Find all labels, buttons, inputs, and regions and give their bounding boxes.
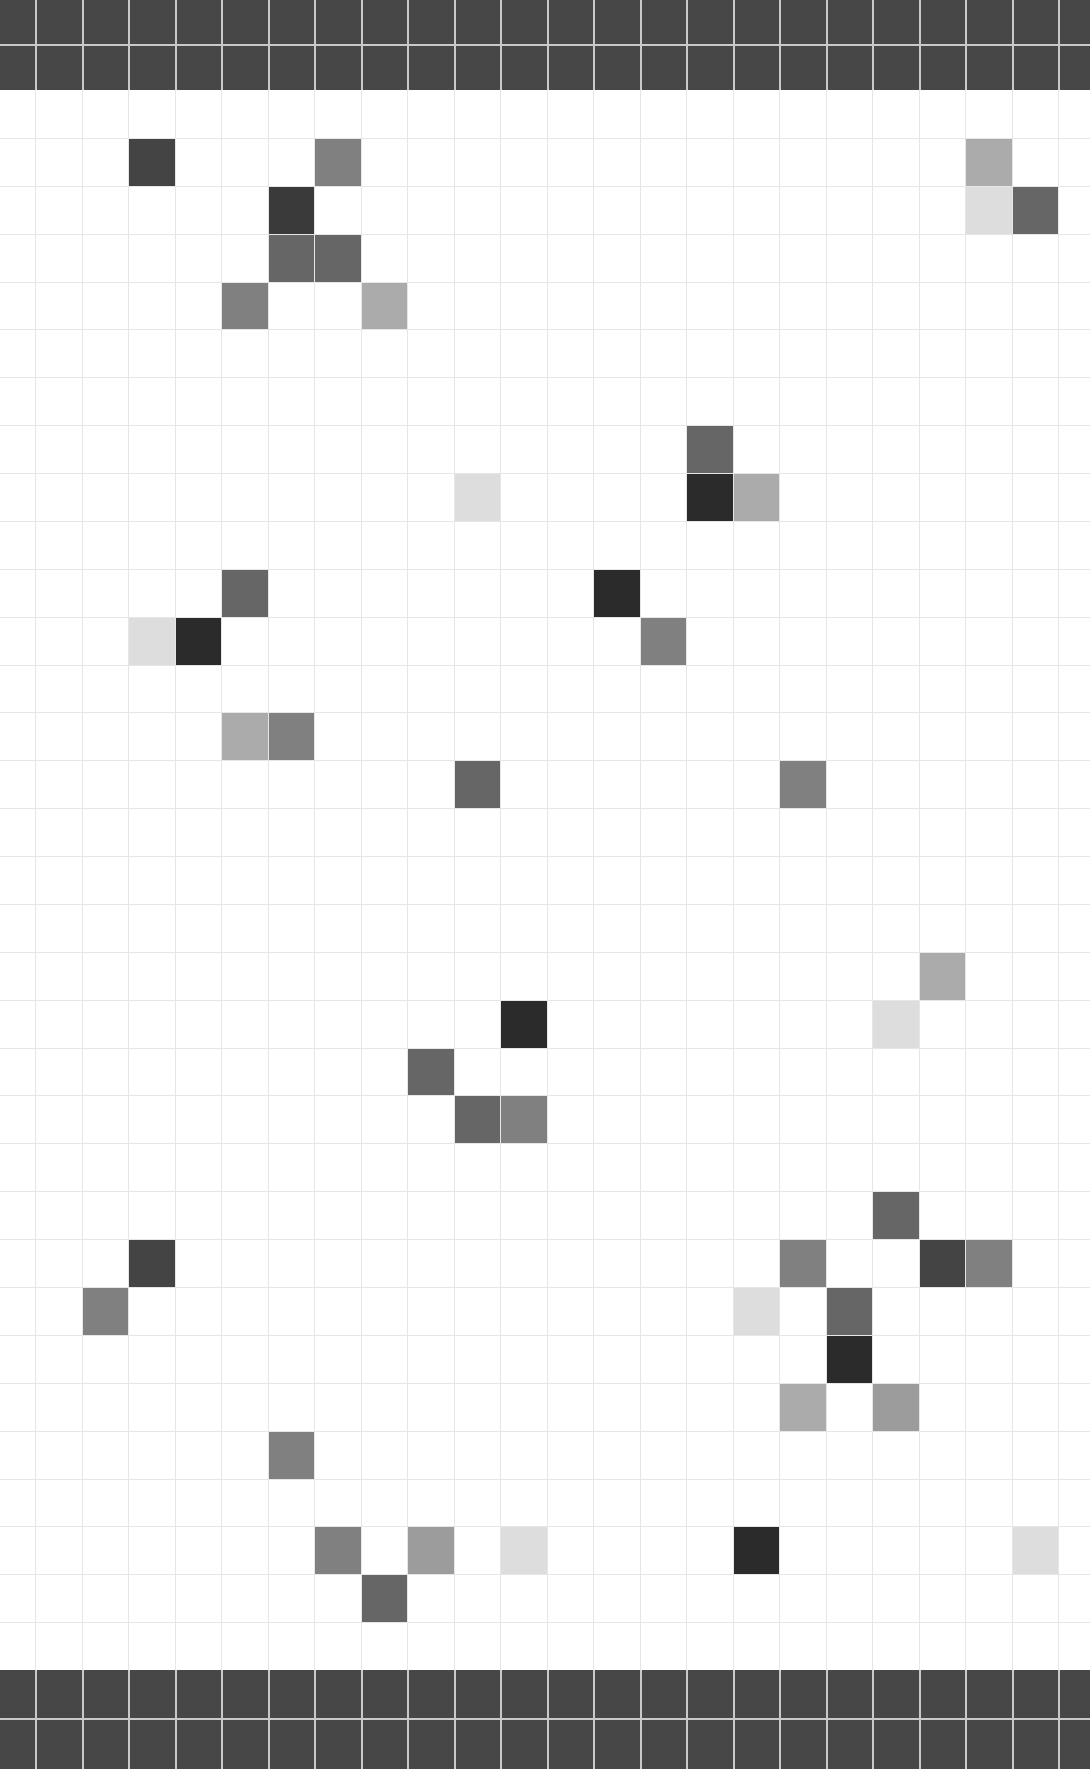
grid-line-vertical bbox=[640, 90, 641, 1670]
filled-cell[interactable] bbox=[1013, 1527, 1059, 1574]
grid-line-vertical bbox=[779, 90, 780, 1670]
grid-line-horizontal bbox=[0, 1191, 1090, 1192]
grid-line-horizontal bbox=[0, 1048, 1090, 1049]
filled-cell[interactable] bbox=[315, 1527, 361, 1574]
grid-line-horizontal bbox=[0, 808, 1090, 809]
grid-line-vertical bbox=[1058, 90, 1059, 1670]
bottom-border-bar bbox=[0, 1670, 1090, 1769]
grid-line-vertical bbox=[872, 90, 873, 1670]
filled-cell[interactable] bbox=[455, 474, 501, 521]
grid-line-horizontal bbox=[0, 1287, 1090, 1288]
filled-cell[interactable] bbox=[641, 618, 687, 665]
filled-cell[interactable] bbox=[966, 139, 1012, 186]
filled-cell[interactable] bbox=[408, 1527, 454, 1574]
bar-divider-horizontal bbox=[0, 44, 1090, 46]
grid-line-vertical bbox=[547, 90, 548, 1670]
filled-cell[interactable] bbox=[129, 1240, 175, 1287]
grid-line-vertical bbox=[919, 90, 920, 1670]
grid-line-horizontal bbox=[0, 712, 1090, 713]
filled-cell[interactable] bbox=[873, 1192, 919, 1239]
grid-line-vertical bbox=[733, 90, 734, 1670]
filled-cell[interactable] bbox=[269, 187, 315, 234]
grid-line-vertical bbox=[454, 90, 455, 1670]
filled-cell[interactable] bbox=[734, 1288, 780, 1335]
grid-line-horizontal bbox=[0, 377, 1090, 378]
grid-line-horizontal bbox=[0, 186, 1090, 187]
grid-line-horizontal bbox=[0, 665, 1090, 666]
filled-cell[interactable] bbox=[455, 1096, 501, 1143]
top-border-bar bbox=[0, 0, 1090, 90]
filled-cell[interactable] bbox=[501, 1001, 547, 1048]
grid-line-vertical bbox=[965, 90, 966, 1670]
filled-cell[interactable] bbox=[269, 713, 315, 760]
grid-line-vertical bbox=[35, 90, 36, 1670]
filled-cell[interactable] bbox=[827, 1336, 873, 1383]
grid-line-vertical bbox=[593, 90, 594, 1670]
filled-cell[interactable] bbox=[687, 474, 733, 521]
filled-cell[interactable] bbox=[780, 1240, 826, 1287]
grid-line-vertical bbox=[686, 90, 687, 1670]
filled-cell[interactable] bbox=[269, 235, 315, 282]
grid-line-horizontal bbox=[0, 1622, 1090, 1623]
grid-line-vertical bbox=[826, 90, 827, 1670]
filled-cell[interactable] bbox=[734, 1527, 780, 1574]
filled-cell[interactable] bbox=[362, 1575, 408, 1622]
filled-cell[interactable] bbox=[83, 1288, 129, 1335]
filled-cell[interactable] bbox=[455, 761, 501, 808]
grid-line-vertical bbox=[314, 90, 315, 1670]
filled-cell[interactable] bbox=[315, 139, 361, 186]
filled-cell[interactable] bbox=[501, 1096, 547, 1143]
filled-cell[interactable] bbox=[315, 235, 361, 282]
grid-line-horizontal bbox=[0, 1335, 1090, 1336]
filled-cell[interactable] bbox=[966, 187, 1012, 234]
filled-cell[interactable] bbox=[501, 1527, 547, 1574]
filled-cell[interactable] bbox=[129, 618, 175, 665]
filled-cell[interactable] bbox=[222, 283, 268, 330]
grid-line-horizontal bbox=[0, 473, 1090, 474]
grid-line-vertical bbox=[407, 90, 408, 1670]
grid-line-horizontal bbox=[0, 425, 1090, 426]
filled-cell[interactable] bbox=[408, 1049, 454, 1096]
filled-cell[interactable] bbox=[780, 761, 826, 808]
filled-cell[interactable] bbox=[269, 1432, 315, 1479]
grid-line-horizontal bbox=[0, 1479, 1090, 1480]
filled-cell[interactable] bbox=[687, 426, 733, 473]
filled-cell[interactable] bbox=[734, 474, 780, 521]
filled-cell[interactable] bbox=[129, 139, 175, 186]
filled-cell[interactable] bbox=[780, 1384, 826, 1431]
filled-cell[interactable] bbox=[920, 953, 966, 1000]
grid-line-horizontal bbox=[0, 856, 1090, 857]
game-board[interactable] bbox=[0, 90, 1090, 1670]
grid-line-horizontal bbox=[0, 904, 1090, 905]
grid-line-horizontal bbox=[0, 569, 1090, 570]
filled-cell[interactable] bbox=[966, 1240, 1012, 1287]
grid-line-horizontal bbox=[0, 1143, 1090, 1144]
grid-line-vertical bbox=[1012, 90, 1013, 1670]
grid-line-horizontal bbox=[0, 1574, 1090, 1575]
filled-cell[interactable] bbox=[873, 1384, 919, 1431]
grid-line-horizontal bbox=[0, 329, 1090, 330]
grid-line-vertical bbox=[500, 90, 501, 1670]
filled-cell[interactable] bbox=[222, 570, 268, 617]
grid-line-horizontal bbox=[0, 234, 1090, 235]
filled-cell[interactable] bbox=[873, 1001, 919, 1048]
grid-line-vertical bbox=[128, 90, 129, 1670]
grid-line-vertical bbox=[175, 90, 176, 1670]
grid-line-horizontal bbox=[0, 282, 1090, 283]
grid-line-vertical bbox=[82, 90, 83, 1670]
filled-cell[interactable] bbox=[1013, 187, 1059, 234]
filled-cell[interactable] bbox=[594, 570, 640, 617]
filled-cell[interactable] bbox=[920, 1240, 966, 1287]
grid-line-horizontal bbox=[0, 521, 1090, 522]
grid-line-horizontal bbox=[0, 760, 1090, 761]
grid-line-horizontal bbox=[0, 1383, 1090, 1384]
filled-cell[interactable] bbox=[176, 618, 222, 665]
filled-cell[interactable] bbox=[222, 713, 268, 760]
bar-divider-horizontal bbox=[0, 1718, 1090, 1720]
filled-cell[interactable] bbox=[362, 283, 408, 330]
filled-cell[interactable] bbox=[827, 1288, 873, 1335]
grid-line-horizontal bbox=[0, 1431, 1090, 1432]
